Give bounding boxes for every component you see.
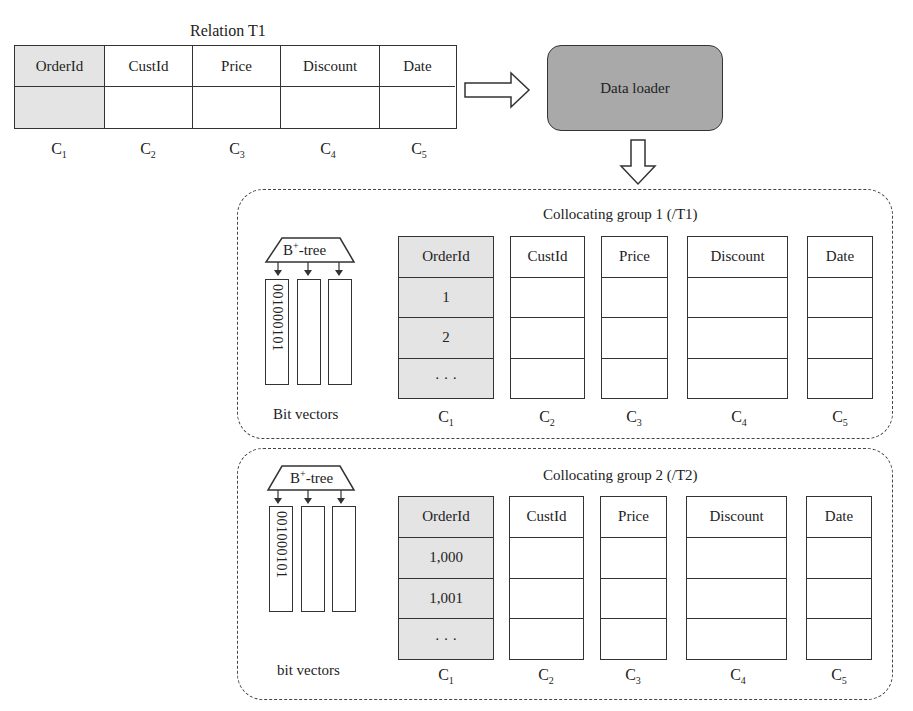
relation-column-discount: Discount — [281, 46, 380, 128]
bit-vectors-label: Bit vectors — [273, 406, 338, 423]
column-label-c1: C1 — [416, 408, 476, 428]
column-label-c1: C1 — [416, 666, 476, 686]
cell-value: 1 — [399, 277, 493, 318]
column-date: Date — [806, 496, 872, 660]
arrow-right-icon — [463, 70, 533, 110]
column-discount: Discount — [686, 496, 787, 660]
column-label-c4: C4 — [298, 140, 358, 160]
column-discount: Discount — [687, 236, 788, 399]
bit-vectors-label: bit vectors — [277, 662, 340, 679]
column-label-c3: C3 — [207, 140, 267, 160]
bit-vector — [301, 506, 325, 612]
bit-vector — [297, 279, 321, 385]
relation-table: OrderId CustId Price Discount Date — [14, 45, 457, 129]
column-custid: CustId — [510, 236, 585, 399]
relation-column-price: Price — [193, 46, 281, 128]
column-date: Date — [807, 236, 873, 399]
cell-value: · · · — [399, 358, 493, 399]
column-orderid: OrderId 1,000 1,001 · · · — [398, 496, 494, 660]
group-title: Collocating group 2 (/T2) — [543, 467, 698, 484]
bit-vector — [332, 506, 356, 612]
column-label-c1: C1 — [29, 140, 89, 160]
bit-vector — [328, 279, 352, 385]
column-custid: CustId — [509, 496, 584, 660]
group-title: Collocating group 1 (/T1) — [543, 206, 698, 223]
column-price: Price — [600, 496, 667, 660]
cell-value: 2 — [399, 317, 493, 358]
relation-column-orderid: OrderId — [15, 46, 105, 128]
cell-value: 1,000 — [399, 537, 493, 578]
column-label-c3: C3 — [603, 666, 663, 686]
bplus-tree-label: B+-tree — [290, 468, 333, 487]
relation-title: Relation T1 — [190, 22, 266, 40]
column-header: CustId — [105, 46, 192, 87]
column-label-c2: C2 — [118, 140, 178, 160]
column-label-c4: C4 — [709, 408, 769, 428]
column-label-c5: C5 — [389, 140, 449, 160]
column-price: Price — [601, 236, 668, 399]
column-orderid: OrderId 1 2 · · · — [398, 236, 494, 399]
column-label-c2: C2 — [517, 408, 577, 428]
data-loader-box: Data loader — [547, 45, 723, 131]
arrow-down-icon — [618, 138, 658, 188]
column-label-c3: C3 — [604, 408, 664, 428]
relation-column-custid: CustId — [105, 46, 193, 128]
cell-value: · · · — [399, 618, 493, 659]
column-label-c5: C5 — [810, 408, 870, 428]
column-label-c5: C5 — [809, 666, 869, 686]
column-header: Discount — [281, 46, 379, 87]
column-label-c4: C4 — [708, 666, 768, 686]
column-header: OrderId — [15, 46, 104, 87]
column-header: Price — [193, 46, 280, 87]
bplus-tree-label: B+-tree — [283, 240, 326, 259]
column-label-c2: C2 — [516, 666, 576, 686]
relation-column-date: Date — [380, 46, 455, 128]
cell-value: 1,001 — [399, 578, 493, 619]
bit-vector: 001000101 — [269, 506, 293, 612]
column-header: Date — [380, 46, 455, 87]
bit-vector: 001000101 — [265, 279, 289, 385]
